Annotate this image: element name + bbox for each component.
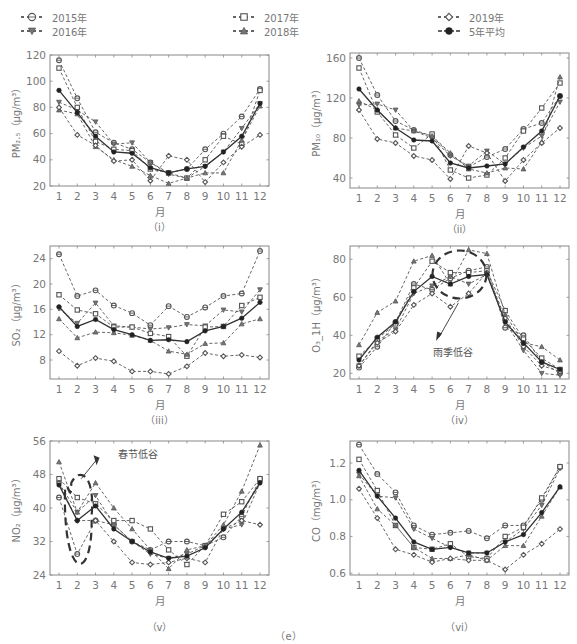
x-tick-label: 3 [92, 383, 99, 395]
x-tick-label: 3 [92, 190, 99, 202]
square-marker-icon [57, 66, 61, 70]
filled-circle-marker-icon [148, 338, 153, 343]
triangle-up-marker-icon [57, 460, 62, 464]
y-axis-label: CO（mg/m³） [311, 474, 322, 542]
panel-sublabel: （i） [148, 222, 171, 233]
x-tick-label: 2 [74, 579, 81, 591]
x-tick-label: 6 [447, 192, 454, 204]
diamond-marker-icon [239, 518, 244, 523]
circle-dot-marker-icon [111, 303, 116, 308]
triangle-down-marker-icon [466, 282, 471, 286]
square-marker-icon [221, 512, 225, 516]
spring-festival-trough-annotation: 春节低谷 [65, 448, 158, 564]
series-diamond [57, 480, 263, 566]
filled-circle-marker-icon [57, 305, 62, 310]
x-tick-label: 5 [129, 190, 136, 202]
triangle-up-marker-icon [166, 349, 171, 353]
circle-dot-marker-icon [221, 294, 226, 299]
x-tick-label: 1 [356, 383, 363, 395]
circle-dot-marker-icon [166, 539, 171, 544]
chart-panel-o3: 12345678910111220406080O₃_1H（μg/m³）月（iv）… [311, 246, 569, 426]
x-tick-label: 7 [165, 190, 172, 202]
series-square [57, 66, 262, 180]
square-marker-icon [540, 496, 544, 500]
x-axis-label: 月 [155, 595, 165, 607]
square-marker-icon [521, 129, 525, 133]
square-marker-icon [357, 457, 361, 461]
square-marker-icon [521, 525, 525, 529]
figure-caption: （e） [0, 628, 577, 643]
triangle-down-marker-icon [239, 126, 244, 130]
filled-circle-marker-icon [430, 547, 435, 552]
y-tick-label: 20 [333, 367, 346, 379]
square-marker-icon [558, 465, 562, 469]
panel-sublabel: （iv） [445, 415, 474, 426]
y-tick-label: 16 [33, 303, 47, 315]
y-tick-label: 32 [33, 535, 46, 547]
square-marker-icon [240, 500, 244, 504]
x-tick-label: 2 [74, 190, 81, 202]
filled-circle-marker-icon [503, 162, 508, 167]
x-tick-label: 12 [553, 192, 566, 204]
x-axis-label: 月 [455, 595, 465, 607]
chart-panel-so2: 123456789101112812162024SO₂（μg/m³）月（iii） [11, 246, 269, 426]
triangle-down-marker-icon [539, 503, 544, 507]
x-tick-label: 6 [147, 190, 154, 202]
y-tick-label: 80 [333, 132, 346, 144]
series-triangle-down [57, 288, 263, 332]
circle-dot-marker-icon [539, 121, 544, 126]
triangle-down-marker-icon [539, 134, 544, 138]
circle-dot-marker-icon [485, 536, 490, 541]
filled-circle-marker-icon [539, 510, 544, 515]
filled-circle-marker-icon [357, 468, 362, 473]
triangle-up-marker-icon [485, 251, 490, 255]
filled-circle-marker-icon [75, 110, 80, 115]
x-tick-label: 2 [74, 383, 81, 395]
square-marker-icon [240, 303, 244, 307]
x-tick-label: 7 [465, 579, 472, 591]
filled-circle-marker-icon [558, 485, 563, 490]
filled-circle-marker-icon [375, 494, 380, 499]
x-tick-label: 8 [184, 383, 191, 395]
x-tick-label: 3 [92, 579, 99, 591]
square-marker-icon [448, 168, 452, 172]
circle-dot-marker-icon [203, 147, 208, 152]
filled-circle-marker-icon [375, 335, 380, 340]
x-tick-label: 7 [165, 383, 172, 395]
filled-circle-marker-icon [148, 165, 153, 170]
triangle-up-marker-icon [430, 253, 435, 257]
circle-dot-marker-icon [503, 325, 508, 330]
series-diamond [357, 270, 563, 374]
square-marker-icon [258, 88, 262, 92]
filled-circle-marker-icon [130, 332, 135, 337]
filled-circle-marker-icon [485, 551, 490, 556]
triangle-up-marker-icon [466, 247, 471, 251]
x-tick-label: 9 [502, 383, 509, 395]
x-tick-label: 12 [553, 383, 566, 395]
filled-circle-marker-icon [112, 327, 117, 332]
x-axis-label: 月 [155, 399, 165, 411]
diamond-marker-icon [239, 353, 244, 358]
x-axis-label: 月 [455, 208, 465, 220]
triangle-down-marker-icon [411, 527, 416, 531]
x-tick-label: 1 [356, 192, 363, 204]
square-marker-icon [75, 495, 79, 499]
filled-circle-marker-icon [393, 126, 398, 131]
diamond-marker-icon [258, 355, 263, 360]
x-tick-label: 4 [410, 383, 417, 395]
diamond-marker-icon [375, 516, 380, 521]
circle-dot-marker-icon [357, 442, 362, 447]
square-marker-icon [75, 308, 79, 312]
circle-dot-marker-icon [93, 288, 98, 293]
circle-dot-marker-icon [357, 56, 362, 61]
y-axis-label: O₃_1H（μg/m³） [311, 272, 323, 353]
x-tick-label: 5 [129, 579, 136, 591]
series-triangle-up [357, 247, 563, 362]
x-tick-label: 6 [147, 579, 154, 591]
triangle-down-marker-icon [166, 326, 171, 330]
filled-circle-marker-icon [558, 367, 563, 372]
circle-dot-marker-icon [57, 252, 62, 257]
filled-circle-marker-icon [448, 545, 453, 550]
y-tick-label: 24 [33, 252, 47, 264]
x-tick-label: 9 [202, 383, 209, 395]
